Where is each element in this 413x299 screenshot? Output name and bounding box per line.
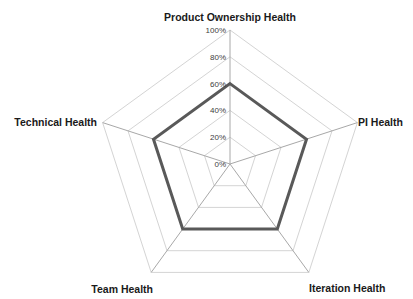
category-label: PI Health [358, 116, 403, 128]
radial-tick-label: 80% [210, 53, 226, 62]
axis-spoke [230, 164, 309, 272]
radial-tick-label: 20% [210, 133, 226, 142]
category-label: Product Ownership Health [164, 11, 296, 23]
radial-tick-label: 100% [206, 26, 226, 35]
axis-spoke [151, 164, 230, 272]
radial-tick-label: 60% [210, 80, 226, 89]
radar-chart: 0%20%40%60%80%100% Product Ownership Hea… [0, 0, 413, 299]
radial-tick-label: 0% [214, 160, 226, 169]
category-label: Team Health [91, 283, 153, 295]
radial-tick-label: 40% [210, 106, 226, 115]
category-label: Technical Health [14, 116, 97, 128]
category-label: Iteration Health [309, 282, 385, 294]
radar-axes [103, 30, 358, 272]
